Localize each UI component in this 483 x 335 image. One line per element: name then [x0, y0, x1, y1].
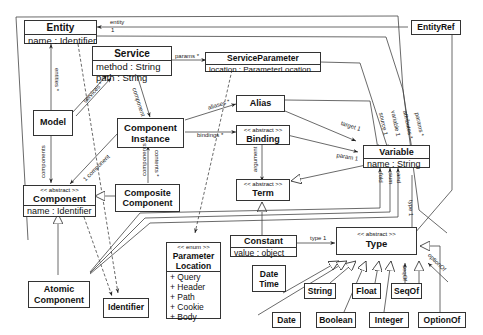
enum-literals: + Query + Header + Path + Cookie + Body [167, 271, 220, 322]
class-binding[interactable]: << abstract >> Binding [236, 125, 290, 145]
edge-label-sum: sum [388, 173, 394, 184]
edge-label-argument: argument [252, 147, 258, 172]
class-atomic-component[interactable]: Atomic Component [28, 281, 90, 308]
class-attr: name : String [364, 158, 429, 169]
class-attr: name : Identifier [25, 34, 96, 46]
class-term[interactable]: << abstract >> Term [236, 179, 290, 201]
enum-name: Parameter Location [167, 251, 220, 271]
class-name: Model [34, 111, 72, 129]
edge-label-entities: entities * [54, 68, 60, 91]
class-name: ServiceParameter [206, 53, 320, 64]
class-service[interactable]: Service method : String path : String [92, 46, 172, 76]
class-entity-ref[interactable]: EntityRef [411, 20, 461, 35]
class-name: OptionOf [419, 313, 465, 327]
class-name: Constant [231, 236, 296, 247]
edge-label-entity-mult: 1 [111, 27, 114, 33]
enum-literal: + Query [170, 272, 217, 282]
class-identifier[interactable]: Identifier [103, 298, 149, 318]
class-string[interactable]: String [304, 283, 336, 299]
edge-label-seq-of: seqOf [402, 265, 408, 281]
class-attr: location : ParameterLocation [206, 64, 320, 74]
class-name: Type [337, 238, 416, 249]
enum-literal: + Cookie [170, 302, 217, 312]
class-name: Composite Component [116, 185, 179, 209]
edge-label-bindings: bindings * [197, 132, 223, 138]
edge-label-entity: entity [110, 19, 124, 25]
enum-parameter-location[interactable]: << enum >> Parameter Location + Query + … [166, 242, 221, 319]
class-name: Variable [364, 146, 429, 158]
enum-stereotype: << enum >> [167, 243, 220, 251]
class-constant[interactable]: Constant value : object [230, 235, 297, 257]
class-name: Identifier [104, 299, 148, 314]
class-name: Integer [370, 313, 408, 327]
edge-label-type-const: type 1 [310, 235, 326, 241]
class-stereotype: << abstract >> [337, 228, 416, 238]
class-option-of[interactable]: OptionOf [418, 312, 466, 328]
class-attr: name : Identifier [24, 205, 95, 216]
class-model[interactable]: Model [33, 110, 73, 136]
class-component-instance[interactable]: Component Instance [117, 118, 184, 148]
edge-label-type-var: type 1 [408, 200, 414, 216]
edge-label-params: params * [175, 53, 199, 59]
class-name: Entity [25, 21, 96, 34]
enum-literal: + Header [170, 282, 217, 292]
class-name: Binding [237, 134, 289, 144]
class-name: Boolean [317, 313, 355, 327]
class-composite-component[interactable]: Composite Component [115, 184, 180, 212]
edge-label-components-model: components [40, 145, 46, 178]
class-name: String [305, 284, 335, 298]
class-type[interactable]: << abstract >> Type [336, 227, 417, 255]
class-name: Date Time [253, 266, 285, 290]
class-attr: value : object [231, 247, 296, 258]
class-date-time[interactable]: Date Time [252, 265, 286, 292]
class-name: Component Instance [118, 119, 183, 145]
class-stereotype: << abstract >> [237, 126, 289, 134]
class-name: SeqOf [392, 284, 421, 298]
class-seq-of[interactable]: SeqOf [391, 283, 422, 299]
class-name: Component [24, 194, 95, 205]
class-attr: method : String [96, 61, 168, 72]
class-name: Service [93, 47, 171, 60]
class-name: Float [353, 284, 380, 298]
edge-label-fold: fold [378, 173, 384, 183]
class-alias[interactable]: Alias [236, 95, 285, 112]
class-stereotype: << abstract >> [237, 180, 289, 188]
class-name: Alias [237, 96, 284, 110]
class-date[interactable]: Date [272, 312, 301, 328]
edge-label-components-composite: components [141, 143, 147, 176]
enum-literal: + Path [170, 292, 217, 302]
class-name: Atomic Component [29, 282, 89, 307]
enum-literal: + Body [170, 312, 217, 322]
class-entity[interactable]: Entity name : Identifier [24, 20, 97, 44]
class-integer[interactable]: Integer [369, 312, 409, 328]
class-variable[interactable]: Variable name : String [363, 145, 430, 168]
edge-label-and: and [396, 173, 402, 183]
class-float[interactable]: Float [352, 283, 381, 299]
class-name: Term [237, 188, 289, 199]
edge-label-contents: contents * [154, 150, 160, 177]
class-name: EntityRef [412, 21, 460, 34]
class-attrs: method : String path : String [93, 60, 171, 83]
class-name: Date [273, 313, 300, 327]
class-attr: path : String [96, 72, 168, 83]
class-service-parameter[interactable]: ServiceParameter location : ParameterLoc… [205, 52, 321, 72]
class-component[interactable]: << abstract >> Component name : Identifi… [23, 185, 96, 217]
class-boolean[interactable]: Boolean [316, 312, 356, 328]
